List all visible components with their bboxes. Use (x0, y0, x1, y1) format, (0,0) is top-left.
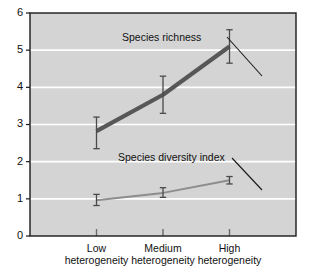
annotation-label: Species diversity index (118, 151, 226, 163)
chart-canvas: 0123456 LowheterogeneityMediumheterogene… (0, 0, 311, 278)
figure-container: 0123456 LowheterogeneityMediumheterogene… (0, 0, 311, 278)
y-tick-label: 6 (17, 6, 23, 18)
x-axis-tick-labels: LowheterogeneityMediumheterogeneityHighh… (65, 242, 262, 266)
y-tick-label: 2 (17, 155, 23, 167)
annotation-label: Species richness (122, 31, 201, 43)
y-tick-label: 0 (17, 229, 23, 241)
y-tick-label: 5 (17, 43, 23, 55)
y-tick-label: 3 (17, 117, 23, 129)
y-tick-label: 4 (17, 80, 23, 92)
y-tick-label: 1 (17, 192, 23, 204)
